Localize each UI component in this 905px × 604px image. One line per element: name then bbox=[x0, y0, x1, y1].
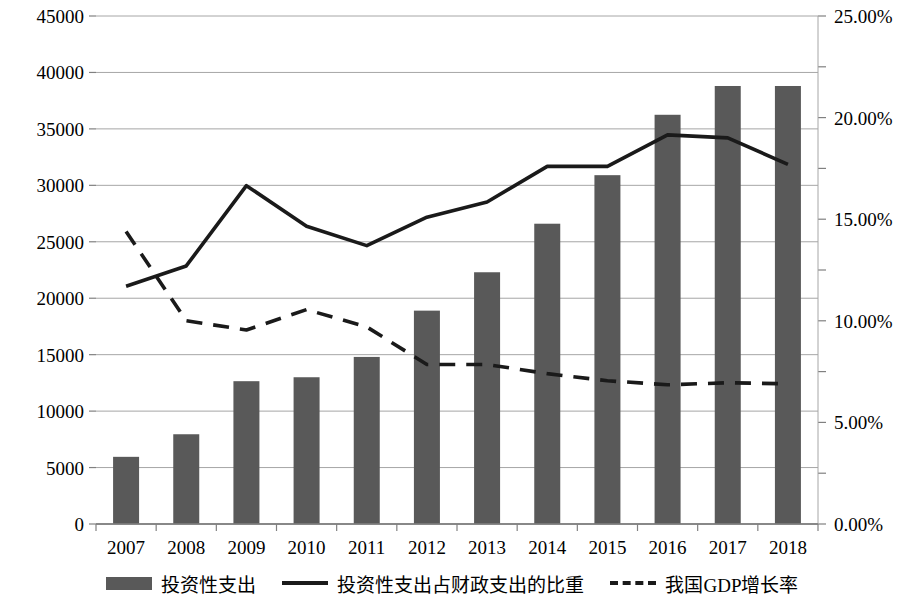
bar-2016 bbox=[655, 115, 681, 524]
right-axis-label-5.00pct: 5.00% bbox=[834, 413, 883, 432]
x-axis-label-2014: 2014 bbox=[517, 538, 577, 557]
chart-legend: 投资性支出 投资性支出占财政支出的比重 我国GDP增长率 bbox=[0, 566, 905, 600]
bar-swatch-icon bbox=[106, 577, 152, 590]
bar-2011 bbox=[354, 357, 380, 524]
left-axis-label-10000: 10000 bbox=[37, 402, 85, 421]
legend-item-bar: 投资性支出 bbox=[106, 570, 256, 597]
left-axis-label-15000: 15000 bbox=[37, 346, 85, 365]
investment-share-line bbox=[126, 135, 788, 286]
legend-item-solid-line: 投资性支出占财政支出的比重 bbox=[282, 570, 584, 597]
legend-label-dashed-line: 我国GDP增长率 bbox=[665, 570, 798, 597]
bar-2007 bbox=[113, 457, 139, 524]
bar-2012 bbox=[414, 311, 440, 524]
right-axis-label-15.00pct: 15.00% bbox=[834, 210, 893, 229]
left-axis-label-5000: 5000 bbox=[46, 459, 84, 478]
x-axis-label-2015: 2015 bbox=[577, 538, 637, 557]
left-axis-label-45000: 45000 bbox=[37, 7, 85, 26]
bar-2009 bbox=[233, 381, 259, 524]
left-axis-label-40000: 40000 bbox=[37, 63, 85, 82]
left-axis-label-20000: 20000 bbox=[37, 289, 85, 308]
gdp-growth-line bbox=[126, 231, 788, 384]
x-axis-label-2010: 2010 bbox=[277, 538, 337, 557]
bar-2017 bbox=[715, 86, 741, 524]
chart-plot-area bbox=[0, 0, 905, 604]
right-axis-label-0.00pct: 0.00% bbox=[834, 515, 883, 534]
x-axis-label-2009: 2009 bbox=[216, 538, 276, 557]
x-axis-label-2012: 2012 bbox=[397, 538, 457, 557]
x-axis-label-2016: 2016 bbox=[638, 538, 698, 557]
left-axis-label-25000: 25000 bbox=[37, 233, 85, 252]
x-axis-label-2017: 2017 bbox=[698, 538, 758, 557]
right-axis-label-25.00pct: 25.00% bbox=[834, 7, 893, 26]
x-axis-label-2007: 2007 bbox=[96, 538, 156, 557]
legend-label-solid-line: 投资性支出占财政支出的比重 bbox=[337, 570, 584, 597]
dashed-line-swatch-icon bbox=[610, 581, 656, 585]
left-axis-label-35000: 35000 bbox=[37, 120, 85, 139]
bar-2008 bbox=[173, 434, 199, 524]
legend-label-bar: 投资性支出 bbox=[161, 570, 256, 597]
right-axis-label-10.00pct: 10.00% bbox=[834, 312, 893, 331]
bar-2015 bbox=[594, 175, 620, 524]
left-axis-label-0: 0 bbox=[75, 515, 85, 534]
x-axis-label-2011: 2011 bbox=[337, 538, 397, 557]
right-axis-label-20.00pct: 20.00% bbox=[834, 109, 893, 128]
x-axis-label-2013: 2013 bbox=[457, 538, 517, 557]
bar-2010 bbox=[294, 377, 320, 524]
bar-2013 bbox=[474, 272, 500, 524]
legend-item-dashed-line: 我国GDP增长率 bbox=[610, 570, 798, 597]
solid-line-swatch-icon bbox=[282, 581, 328, 585]
left-axis-label-30000: 30000 bbox=[37, 176, 85, 195]
chart-container: 0500010000150002000025000300003500040000… bbox=[0, 0, 905, 604]
x-axis-label-2008: 2008 bbox=[156, 538, 216, 557]
x-axis-label-2018: 2018 bbox=[758, 538, 818, 557]
bar-2018 bbox=[775, 86, 801, 524]
